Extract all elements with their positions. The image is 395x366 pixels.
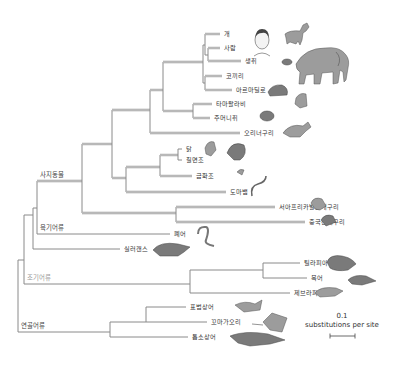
coelacanth-icon	[153, 243, 190, 256]
taxon-label-coelacanth: 실러캔스	[124, 245, 148, 253]
lungfish-icon	[198, 227, 214, 246]
taxon-label-platypus: 오리너구리	[244, 129, 274, 137]
turkey-icon	[227, 144, 245, 160]
taxon-label-lungfish: 폐어	[174, 230, 186, 238]
taxon-label-armadillo: 아르마딜로	[236, 86, 266, 94]
taxon-label-leopard-shark: 표범상어	[190, 303, 214, 311]
human-portrait-icon	[254, 29, 270, 56]
taxon-label-human: 사람	[224, 44, 236, 52]
scale-bar: 0.1 substitutions per site	[305, 312, 379, 339]
lizard-icon	[252, 176, 266, 196]
taxon-label-wallaby: 타마왈라비	[216, 100, 246, 108]
taxon-label-chicken: 닭	[186, 145, 192, 153]
taxon-label-pufferfish: 복어	[311, 274, 323, 282]
phylogenetic-tree: 사지동물 육기어류 조기어류 연골어류 개 사람 생쥐 코끼리 아르마딜로 타마…	[0, 0, 395, 366]
zebra-finch-icon	[237, 169, 244, 175]
taxon-label-mouse: 생쥐	[245, 57, 257, 65]
clade-label-lobe-finned: 육기어류	[40, 223, 64, 232]
scale-bar-unit: substitutions per site	[305, 321, 379, 329]
tilapia-icon	[327, 256, 356, 271]
dog-icon	[285, 23, 309, 45]
taxon-label-zebra-finch: 금화조	[196, 172, 214, 180]
taxon-labels: 개 사람 생쥐 코끼리 아르마딜로 타마왈라비 주머니쥐 오리너구리 닭 칠면조…	[124, 30, 345, 341]
elephant-icon	[296, 48, 349, 84]
tree-branches	[18, 34, 307, 337]
taxon-label-sawshark: 톱소상어	[192, 333, 216, 341]
chicken-icon	[205, 142, 216, 156]
taxon-label-little-skate: 꼬마가오리	[211, 318, 241, 326]
taxon-label-xenopus: 서아프리카발톱개구리	[279, 203, 339, 211]
scale-bar-value: 0.1	[336, 312, 347, 320]
little-skate-icon	[252, 313, 287, 332]
clade-label-ray-finned: 조기어류	[27, 273, 51, 282]
taxon-label-elephant: 코끼리	[226, 72, 244, 80]
taxon-label-lizard: 도마뱀	[230, 188, 248, 196]
wallaby-icon	[295, 94, 307, 109]
platypus-icon	[283, 122, 311, 137]
taxon-label-tilapia: 틸라피아	[304, 259, 328, 267]
armadillo-icon	[268, 85, 287, 96]
animal-illustrations	[153, 23, 376, 346]
clade-label-tetrapods: 사지동물	[40, 170, 64, 179]
taxon-label-turkey: 칠면조	[186, 156, 204, 163]
clade-label-cartilaginous: 연골어류	[21, 321, 45, 330]
sawshark-icon	[230, 332, 285, 346]
leopard-shark-icon	[235, 300, 262, 312]
opossum-icon	[260, 111, 274, 121]
mouse-icon	[282, 59, 292, 65]
taxon-label-opossum: 주머니쥐	[214, 114, 238, 122]
taxon-label-dog: 개	[224, 30, 230, 38]
pufferfish-icon	[348, 276, 376, 286]
